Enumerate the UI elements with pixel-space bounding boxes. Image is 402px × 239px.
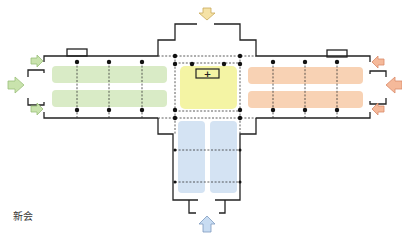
svg-text:+: +	[204, 69, 212, 79]
arrow-left-icon	[372, 56, 402, 115]
arrow-up-icon	[199, 216, 215, 232]
arrow-down-icon	[199, 8, 215, 20]
building-walls	[28, 24, 386, 213]
arrow-right-icon	[8, 55, 43, 115]
caption-label: 新会	[13, 208, 33, 223]
floor-plan-diagram: +	[0, 0, 402, 239]
west-wing-zones	[52, 66, 167, 107]
east-wing-zones	[248, 67, 363, 108]
